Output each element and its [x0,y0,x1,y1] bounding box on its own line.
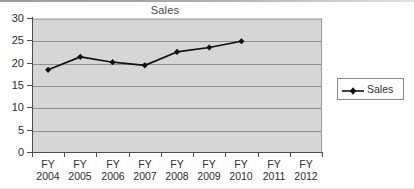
y-tick-label-15: 15 [0,79,24,91]
x-tick-label-fy-2012: FY2012 [283,158,329,182]
bottom-scan-artifact [0,188,414,189]
data-point-marker[interactable] [109,59,115,65]
y-tick-label-25: 25 [0,34,24,46]
x-tick-3 [129,152,130,157]
x-axis-line [32,152,323,153]
y-tick-label-5: 5 [0,124,24,136]
series-layer [32,18,322,152]
y-tick-label-20: 20 [0,57,24,69]
x-tick-1 [64,152,65,157]
x-tick-7 [258,152,259,157]
chart-title: Sales [0,4,330,16]
data-point-marker[interactable] [174,49,180,55]
data-point-marker[interactable] [77,54,83,60]
legend-entry-sales[interactable]: Sales [338,79,403,99]
data-point-marker[interactable] [238,38,244,44]
x-label-line2: 2012 [283,170,329,182]
data-point-marker[interactable] [206,44,212,50]
y-tick-label-30: 30 [0,12,24,24]
x-tick-2 [96,152,97,157]
top-scan-artifact [0,0,414,2]
legend-line-marker-icon [342,83,364,95]
x-tick-5 [193,152,194,157]
x-label-line1: FY [283,158,329,170]
x-tick-9 [322,152,323,157]
x-tick-8 [290,152,291,157]
legend[interactable]: Sales [337,78,404,100]
legend-label-sales: Sales [367,83,393,95]
chart-container: Sales 051015202530 FY2004FY2005FY2006FY2… [0,0,414,189]
x-tick-6 [225,152,226,157]
x-tick-4 [161,152,162,157]
x-tick-0 [32,152,33,157]
data-point-marker[interactable] [45,67,51,73]
y-tick-label-10: 10 [0,101,24,113]
y-tick-label-0: 0 [0,146,24,158]
data-point-marker[interactable] [142,62,148,68]
